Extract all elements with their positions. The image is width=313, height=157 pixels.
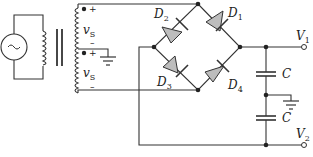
capacitor-bottom-label: C	[282, 112, 291, 124]
winding2-plus: +	[89, 49, 97, 58]
diode-d2-label: D2	[154, 8, 169, 23]
ground-icon	[100, 57, 116, 65]
capacitor-icon	[256, 72, 276, 76]
diode-d1-label: D1	[228, 7, 243, 22]
wire-bottom	[78, 90, 198, 93]
winding1-plus: +	[89, 5, 97, 14]
winding1-label: vS	[83, 24, 95, 39]
junction-dots	[82, 2, 269, 148]
primary-coil	[43, 31, 46, 65]
wire-left-to-v2	[139, 47, 302, 145]
circuit-diagram: + vS – + vS – D2 D1 D3 D4 C C V1 V2	[0, 0, 313, 157]
source-wire-bottom	[14, 60, 43, 79]
secondary-coil	[75, 8, 78, 93]
v2-terminal	[302, 143, 307, 148]
cap-mid-ground-wire	[266, 95, 291, 101]
source-wire-top	[14, 15, 43, 34]
output-v2-label: V2	[296, 128, 310, 143]
v1-terminal	[302, 45, 307, 50]
capacitor-top-label: C	[282, 68, 291, 80]
diode-d1-icon	[206, 11, 228, 31]
winding2-label: vS	[83, 67, 95, 82]
winding2-minus: –	[90, 83, 95, 92]
diode-d3-label: D3	[157, 76, 172, 91]
winding1-minus: –	[90, 39, 95, 48]
output-v1-label: V1	[296, 30, 310, 45]
ground-icon	[283, 101, 299, 109]
capacitor-icon	[256, 116, 276, 120]
diode-d4-label: D4	[228, 79, 243, 94]
